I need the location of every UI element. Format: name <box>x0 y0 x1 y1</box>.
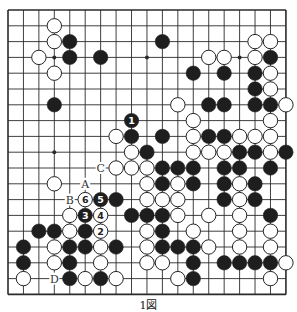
white-stone <box>109 129 123 143</box>
stone-body <box>171 240 185 254</box>
stone-body <box>16 240 30 254</box>
black-stone <box>248 98 262 112</box>
stone-body <box>232 224 246 238</box>
black-stone <box>202 129 216 143</box>
stone-body <box>279 98 293 112</box>
move-number: 1 <box>128 115 135 126</box>
move-number: 2 <box>97 226 104 237</box>
black-stone <box>186 240 200 254</box>
black-stone <box>32 224 46 238</box>
stone-body <box>248 82 262 96</box>
diagram-caption: 1図 <box>0 300 297 311</box>
white-stone <box>140 192 154 206</box>
white-stone <box>232 224 246 238</box>
white-stone <box>248 34 262 48</box>
stone-body <box>202 208 216 222</box>
stone-body <box>279 256 293 270</box>
stone-body <box>171 271 185 285</box>
black-stone <box>124 208 138 222</box>
stone-body <box>232 192 246 206</box>
white-stone <box>202 208 216 222</box>
black-stone <box>171 240 185 254</box>
white-stone <box>47 19 61 33</box>
stone-body <box>93 271 107 285</box>
stone-body <box>109 271 123 285</box>
stone-body <box>140 177 154 191</box>
stone-body <box>63 271 77 285</box>
black-stone <box>248 256 262 270</box>
stone-body <box>248 34 262 48</box>
black-stone <box>78 240 92 254</box>
star-point <box>238 55 242 59</box>
white-stone <box>263 224 277 238</box>
stone-body <box>232 240 246 254</box>
stone-body <box>78 271 92 285</box>
star-point <box>52 55 56 59</box>
stone-body <box>248 192 262 206</box>
white-stone <box>248 129 262 143</box>
stone-body <box>186 240 200 254</box>
white-stone <box>171 177 185 191</box>
stone-body <box>232 208 246 222</box>
stone-body <box>155 129 169 143</box>
white-stone <box>186 145 200 159</box>
stone-body <box>202 145 216 159</box>
white-stone <box>202 240 216 254</box>
stone-body <box>47 224 61 238</box>
stone-body <box>32 50 46 64</box>
white-stone <box>232 240 246 254</box>
black-stone <box>263 256 277 270</box>
stone-body <box>186 256 200 270</box>
white-stone <box>63 224 77 238</box>
stone-body <box>186 161 200 175</box>
white-stone <box>232 177 246 191</box>
black-stone <box>217 177 231 191</box>
black-stone <box>186 66 200 80</box>
white-stone <box>140 224 154 238</box>
stone-body <box>263 271 277 285</box>
stone-body <box>155 34 169 48</box>
white-stone <box>171 192 185 206</box>
stone-body <box>232 129 246 143</box>
stone-body <box>93 240 107 254</box>
star-point <box>52 150 56 154</box>
white-stone <box>279 98 293 112</box>
black-stone <box>124 129 138 143</box>
black-stone <box>248 82 262 96</box>
black-stone <box>217 66 231 80</box>
stone-body <box>155 256 169 270</box>
stone-body <box>248 66 262 80</box>
stone-body <box>263 98 277 112</box>
white-stone <box>186 113 200 127</box>
white-stone <box>171 271 185 285</box>
white-stone <box>186 129 200 143</box>
white-stone <box>279 256 293 270</box>
point-label-d: D <box>50 273 59 286</box>
stone-body <box>263 145 277 159</box>
stone-body <box>109 192 123 206</box>
black-stone <box>248 66 262 80</box>
black-stone <box>155 240 169 254</box>
black-stone <box>279 145 293 159</box>
stone-body <box>248 256 262 270</box>
stone-body <box>47 240 61 254</box>
stone-body <box>202 129 216 143</box>
white-stone <box>263 34 277 48</box>
white-stone <box>263 240 277 254</box>
black-stone <box>155 177 169 191</box>
stone-body <box>217 66 231 80</box>
stone-body <box>47 19 61 33</box>
black-stone <box>63 34 77 48</box>
black-stone <box>155 161 169 175</box>
white-stone <box>63 208 77 222</box>
white-stone <box>155 256 169 270</box>
stone-body <box>32 224 46 238</box>
black-stone <box>93 50 107 64</box>
stone-body <box>217 145 231 159</box>
black-stone <box>63 50 77 64</box>
black-stone <box>155 208 169 222</box>
black-stone <box>186 161 200 175</box>
stone-body <box>155 208 169 222</box>
black-stone <box>63 271 77 285</box>
white-stone <box>217 50 231 64</box>
